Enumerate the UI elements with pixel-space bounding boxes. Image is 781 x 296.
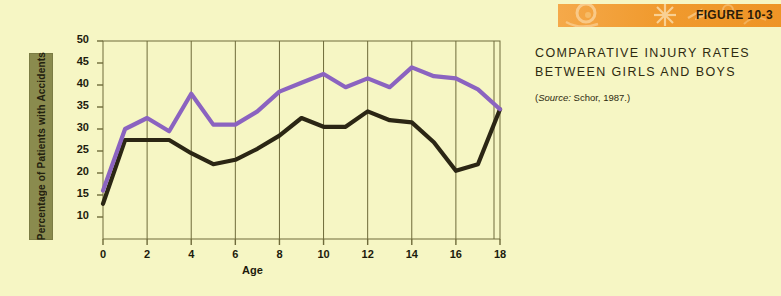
figure-title: COMPARATIVE INJURY RATES BETWEEN GIRLS A… <box>535 44 775 82</box>
x-tick-label: 16 <box>441 248 471 260</box>
figure-banner: FIGURE 10-3 <box>558 4 781 27</box>
y-tick-label: 35 <box>63 99 89 111</box>
y-tick-label: 50 <box>63 33 89 45</box>
plot-area: 101520253035404550 024681012141618 Age <box>0 0 520 296</box>
x-tick-label: 6 <box>220 248 250 260</box>
series-line-boys <box>103 67 500 190</box>
x-tick-label: 0 <box>88 248 118 260</box>
figure-number-label: FIGURE 10-3 <box>696 8 773 22</box>
y-tick-label: 10 <box>63 209 89 221</box>
source-label: Source: <box>538 92 571 103</box>
y-tick-label: 45 <box>63 55 89 67</box>
y-tick-label: 15 <box>63 187 89 199</box>
x-tick-label: 8 <box>264 248 294 260</box>
x-tick-label: 12 <box>353 248 383 260</box>
figure-title-line-2: BETWEEN GIRLS AND BOYS <box>535 63 775 82</box>
x-tick-label: 4 <box>176 248 206 260</box>
source-citation: Schor, 1987.) <box>571 92 630 103</box>
y-tick-label: 30 <box>63 121 89 133</box>
y-tick-label: 40 <box>63 77 89 89</box>
figure-source: (Source: Schor, 1987.) <box>535 92 775 103</box>
x-tick-label: 10 <box>309 248 339 260</box>
series-line-girls <box>103 109 500 204</box>
caption-block: FIGURE 10-3 COMPARATIVE INJURY RATES BET… <box>520 0 781 296</box>
x-tick-label: 2 <box>132 248 162 260</box>
x-tick-label: 14 <box>397 248 427 260</box>
y-tick-label: 20 <box>63 165 89 177</box>
x-tick-marks <box>103 239 500 245</box>
x-tick-label: 18 <box>485 248 515 260</box>
figure-title-line-1: COMPARATIVE INJURY RATES <box>535 44 775 63</box>
x-axis-title: Age <box>0 264 505 276</box>
y-tick-label: 25 <box>63 143 89 155</box>
chart-figure: Percentage of Patients with Accidents 10… <box>0 0 520 296</box>
gridlines <box>147 41 494 239</box>
